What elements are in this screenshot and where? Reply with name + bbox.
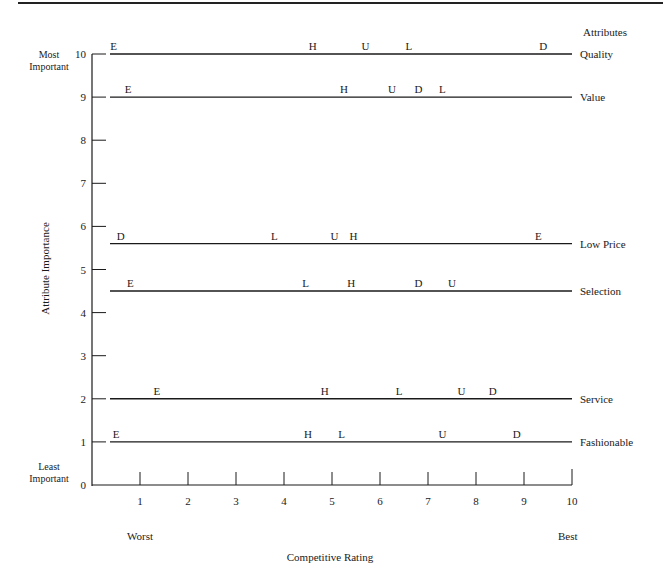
competitor-marker-d: D: [539, 40, 547, 52]
x-tick-label: 5: [329, 495, 335, 507]
competitor-marker-d: D: [513, 428, 521, 440]
y-tick-label: 10: [75, 48, 87, 60]
competitor-marker-e: E: [153, 385, 160, 397]
attribute-name-quality: Quality: [580, 48, 613, 60]
chart-plot-area: 01234567891012345678910EHULDQualityEHUDL…: [0, 0, 663, 570]
x-tick-label: 6: [377, 495, 383, 507]
competitor-marker-h: H: [321, 385, 329, 397]
competitor-marker-h: H: [304, 428, 312, 440]
x-tick-label: 1: [137, 495, 143, 507]
competitor-marker-u: U: [388, 83, 396, 95]
x-tick-label: 10: [567, 495, 579, 507]
y-tick-label: 1: [81, 436, 87, 448]
competitor-marker-h: H: [309, 40, 317, 52]
y-tick-label: 4: [81, 307, 87, 319]
competitor-marker-h: H: [340, 83, 348, 95]
competitor-marker-l: L: [439, 83, 446, 95]
x-tick-label: 9: [521, 495, 527, 507]
attribute-name-low-price: Low Price: [580, 238, 626, 250]
competitor-marker-d: D: [117, 230, 125, 242]
competitor-marker-u: U: [362, 40, 370, 52]
x-tick-label: 8: [473, 495, 479, 507]
y-tick-label: 2: [81, 393, 87, 405]
competitor-marker-u: U: [458, 385, 466, 397]
y-tick-label: 9: [81, 91, 87, 103]
competitor-marker-e: E: [125, 83, 132, 95]
x-tick-label: 7: [425, 495, 431, 507]
competitor-marker-d: D: [414, 83, 422, 95]
y-tick-label: 3: [81, 350, 87, 362]
competitor-marker-e: E: [113, 428, 120, 440]
competitor-marker-l: L: [302, 277, 309, 289]
competitor-marker-d: D: [414, 277, 422, 289]
x-tick-label: 3: [233, 495, 239, 507]
competitor-marker-h: H: [350, 230, 358, 242]
competitor-marker-u: U: [448, 277, 456, 289]
competitor-marker-l: L: [271, 230, 278, 242]
competitor-marker-h: H: [347, 277, 355, 289]
competitor-marker-e: E: [535, 230, 542, 242]
competitor-marker-l: L: [405, 40, 412, 52]
competitor-marker-u: U: [438, 428, 446, 440]
competitor-marker-u: U: [330, 230, 338, 242]
x-tick-label: 4: [281, 495, 287, 507]
attribute-name-service: Service: [580, 393, 613, 405]
y-tick-label: 0: [81, 479, 87, 491]
attribute-name-value: Value: [580, 91, 605, 103]
competitor-marker-e: E: [127, 277, 134, 289]
y-tick-label: 7: [81, 177, 87, 189]
y-tick-label: 6: [81, 220, 87, 232]
competitor-marker-e: E: [110, 40, 117, 52]
attribute-name-selection: Selection: [580, 285, 621, 297]
x-tick-label: 2: [185, 495, 191, 507]
competitor-marker-l: L: [396, 385, 403, 397]
y-tick-label: 5: [81, 264, 87, 276]
competitor-marker-d: D: [489, 385, 497, 397]
competitor-marker-l: L: [338, 428, 345, 440]
attribute-name-fashionable: Fashionable: [580, 436, 633, 448]
y-tick-label: 8: [81, 134, 87, 146]
